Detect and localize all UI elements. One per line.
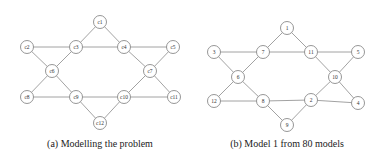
edge-2-4: [311, 100, 358, 103]
node-c12: c12: [94, 117, 107, 130]
node-label: c7: [147, 68, 152, 74]
node-9: 9: [281, 119, 294, 132]
node-7: 7: [257, 46, 270, 59]
node-8: 8: [257, 95, 270, 108]
node-label: 10: [332, 74, 338, 80]
edge-8-2: [263, 100, 311, 101]
node-label: 1: [286, 25, 289, 31]
node-c7: c7: [144, 65, 157, 78]
node-label: c1: [97, 19, 102, 25]
node-label: 7: [262, 49, 265, 55]
graph-canvas: c1c2c3c4c5c6c7c8c9c10c11c12 137115610128…: [0, 0, 387, 150]
node-6: 6: [232, 71, 245, 84]
node-3: 3: [208, 46, 221, 59]
node-c6: c6: [46, 65, 59, 78]
node-c4: c4: [118, 41, 131, 54]
node-c10: c10: [118, 91, 131, 104]
node-c1: c1: [94, 16, 107, 29]
node-label: c5: [170, 44, 175, 50]
node-label: c11: [170, 94, 178, 100]
node-11: 11: [305, 46, 318, 59]
node-label: 8: [262, 98, 265, 104]
node-c8: c8: [21, 91, 34, 104]
figure-b-graph: 137115610128249: [208, 22, 365, 132]
node-c2: c2: [21, 41, 34, 54]
node-c9: c9: [70, 91, 83, 104]
node-label: c8: [24, 94, 29, 100]
node-c3: c3: [70, 41, 83, 54]
node-4: 4: [352, 97, 365, 110]
node-c11: c11: [168, 91, 181, 104]
node-12: 12: [208, 95, 221, 108]
node-label: 9: [286, 122, 289, 128]
node-5: 5: [352, 46, 365, 59]
node-label: 2: [310, 97, 313, 103]
node-2: 2: [305, 94, 318, 107]
node-label: 3: [213, 49, 216, 55]
node-10: 10: [329, 71, 342, 84]
node-label: c9: [73, 94, 78, 100]
node-label: 11: [308, 49, 314, 55]
node-label: 4: [357, 100, 360, 106]
node-c5: c5: [167, 41, 180, 54]
node-label: c2: [24, 44, 29, 50]
node-label: c6: [49, 68, 54, 74]
node-label: c10: [120, 94, 128, 100]
node-label: c3: [73, 44, 78, 50]
node-label: c12: [96, 120, 104, 126]
figure-b-caption: (b) Model 1 from 80 models: [230, 138, 344, 149]
figure-a-caption: (a) Modelling the problem: [47, 138, 153, 149]
figure-a-graph: c1c2c3c4c5c6c7c8c9c10c11c12: [21, 16, 181, 130]
node-label: 5: [357, 49, 360, 55]
node-label: c4: [121, 44, 126, 50]
node-label: 6: [237, 74, 240, 80]
node-label: 12: [211, 98, 217, 104]
node-1: 1: [281, 22, 294, 35]
